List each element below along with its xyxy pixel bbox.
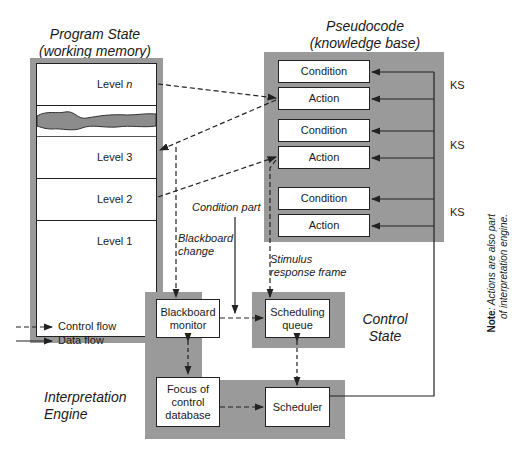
connector-layer: [0, 0, 514, 455]
